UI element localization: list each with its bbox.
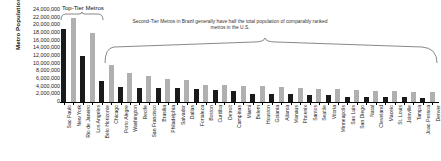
x-axis-tick-label: Fortaleza [199, 105, 205, 157]
bar [335, 89, 340, 102]
bar [90, 33, 95, 102]
bar [184, 80, 189, 102]
x-axis-tick-label: Belem [255, 105, 261, 157]
x-axis-tick-label: San Diego [359, 105, 365, 157]
bar [241, 86, 246, 102]
bar [269, 94, 274, 102]
x-axis-tick [319, 103, 320, 105]
y-axis-tick-label: 0 [4, 99, 60, 104]
x-axis-tick-label: Cleveland [378, 105, 384, 157]
chart-container: Metro Population 24,000,00022,000,00020,… [0, 0, 441, 161]
x-axis-tick-label: Sao Paulo [66, 105, 72, 157]
x-axis-tick-label: Vitoria [331, 105, 337, 157]
x-axis-tick [168, 103, 169, 105]
x-axis-tick-label: Houston [265, 105, 271, 157]
x-axis-tick [92, 103, 93, 105]
bar [146, 76, 151, 102]
x-axis-tick [328, 103, 329, 105]
x-axis-tick [291, 103, 292, 105]
bar [222, 85, 227, 102]
x-axis-tick-label: Philadelphia [170, 105, 176, 157]
x-axis-tick-label: Salvador [180, 105, 186, 157]
x-axis-tick-label: Chicago [113, 105, 119, 157]
x-axis-tick-label: Campinas [236, 105, 242, 157]
x-axis-tick [243, 103, 244, 105]
x-axis-tick-label: Seattle [321, 105, 327, 157]
x-axis-tick-label: Recife [142, 105, 148, 157]
x-axis-tick-label: Denver [435, 105, 441, 157]
x-axis-tick-label: St. Louis [397, 105, 403, 157]
x-axis-tick [73, 103, 74, 105]
x-axis-tick [272, 103, 273, 105]
x-axis-tick-label: Natal [369, 105, 375, 157]
x-axis-tick [357, 103, 358, 105]
bar [99, 81, 104, 102]
x-axis-tick [64, 103, 65, 105]
bar [392, 91, 397, 102]
x-axis-labels: Sao PauloNew YorkRio de JaneiroLos Angel… [60, 103, 438, 161]
x-axis-tick [262, 103, 263, 105]
x-axis-tick [102, 103, 103, 105]
x-axis-tick [253, 103, 254, 105]
bar [137, 88, 142, 102]
bar [118, 87, 123, 102]
x-axis-tick-label: Rio de Janeiro [85, 105, 91, 157]
bar [288, 94, 293, 102]
x-axis-tick [300, 103, 301, 105]
x-axis-tick [404, 103, 405, 105]
x-axis-tick-label: Minneapolis [340, 105, 346, 157]
y-axis-tick-label: 18,000,000 [4, 30, 60, 35]
x-axis-tick-label: Atlanta [284, 105, 290, 157]
x-axis-tick-label: Phoenix [302, 105, 308, 157]
bar [316, 89, 321, 102]
x-axis-tick [385, 103, 386, 105]
x-axis-tick [432, 103, 433, 105]
x-axis-tick-label: Maceio [388, 105, 394, 157]
x-axis-tick-label: Santos [312, 105, 318, 157]
x-axis-tick [130, 103, 131, 105]
x-axis-tick [310, 103, 311, 105]
bar [203, 85, 208, 102]
bar [175, 88, 180, 102]
plot-area [60, 10, 438, 102]
x-axis-tick [121, 103, 122, 105]
bar [80, 56, 85, 102]
x-axis-tick-label: Belo Horizonte [104, 105, 110, 157]
x-axis-tick-label: Miami [246, 105, 252, 157]
bar [298, 88, 303, 102]
x-axis-tick [139, 103, 140, 105]
bar [354, 90, 359, 102]
bar [231, 91, 236, 102]
x-axis-tick [158, 103, 159, 105]
x-axis-tick [177, 103, 178, 105]
y-axis-tick-label: 10,000,000 [4, 61, 60, 66]
bar [213, 90, 218, 102]
x-axis-tick-label: Brasilia [161, 105, 167, 157]
x-axis-tick [347, 103, 348, 105]
y-axis-tick-label: 4,000,000 [4, 84, 60, 89]
x-axis-tick-label: Los Angeles [95, 105, 101, 157]
bar [156, 88, 161, 102]
y-axis-tick-label: 12,000,000 [4, 53, 60, 58]
x-axis-tick-label: Sao Luis [350, 105, 356, 157]
bar [194, 89, 199, 102]
x-axis-tick [423, 103, 424, 105]
x-axis-tick [281, 103, 282, 105]
x-axis-tick-label: Curitiba [217, 105, 223, 157]
x-axis-tick-label: Goiania [274, 105, 280, 157]
x-axis-tick-label: Porto Alegre [123, 105, 129, 157]
bar [260, 86, 265, 102]
bar [307, 95, 312, 102]
x-axis-tick-label: New York [76, 105, 82, 157]
x-axis-tick [187, 103, 188, 105]
x-axis-tick [413, 103, 414, 105]
bar [250, 94, 255, 102]
y-axis-tick-label: 8,000,000 [4, 68, 60, 73]
bar [430, 92, 435, 102]
x-axis-tick-label: Joinville [406, 105, 412, 157]
x-axis-tick [149, 103, 150, 105]
x-axis-tick [234, 103, 235, 105]
x-axis-tick-label: Washington [132, 105, 138, 157]
x-axis-tick-label: Detroit [227, 105, 233, 157]
y-axis-ticks: 24,000,00022,000,00020,000,00018,000,000… [0, 0, 60, 105]
